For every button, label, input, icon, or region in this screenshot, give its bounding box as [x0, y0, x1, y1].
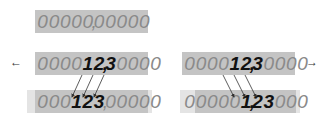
digit: 0: [207, 53, 218, 75]
digit: 0: [150, 53, 161, 75]
digit: 0: [286, 53, 297, 75]
digit: 0: [195, 91, 206, 113]
digit: 0: [195, 53, 206, 75]
digit: 0: [60, 91, 71, 113]
digit: 0: [116, 53, 127, 75]
digit: 0: [218, 91, 229, 113]
digit: 0: [37, 11, 48, 33]
digit: 0: [297, 91, 308, 113]
left-before-digits: 0 0 0 0 1 2 , 3 0 0 0 0: [37, 52, 161, 75]
top-digits: 0 0 0 0 0 , 0 0 0 0 0: [37, 10, 150, 33]
digit: 0: [60, 11, 71, 33]
digit: 0: [37, 53, 48, 75]
digit: 0: [48, 11, 59, 33]
digit: 0: [229, 91, 240, 113]
digit: 0: [218, 53, 229, 75]
digit: 0: [105, 11, 116, 33]
digit: 0: [71, 53, 82, 75]
digit: 0: [127, 53, 138, 75]
digit: 0: [274, 91, 285, 113]
digit: 0: [184, 53, 195, 75]
digit: 0: [60, 53, 71, 75]
digit: 0: [184, 91, 195, 113]
digit: 0: [48, 53, 59, 75]
digit: 0: [207, 91, 218, 113]
digit: 0: [139, 11, 150, 33]
right-after-digits: 0 0 0 0 0 1 , 2 3 0 0 0: [184, 90, 308, 113]
highlight-digit: 2: [82, 91, 93, 113]
highlight-digit: 3: [263, 91, 274, 113]
digit: 0: [37, 91, 48, 113]
digit: 0: [127, 91, 138, 113]
digit: 0: [274, 53, 285, 75]
highlight-digit: 1: [229, 53, 240, 75]
digit: 0: [286, 91, 297, 113]
left-after-digits: 0 0 0 1 2 3 , 0 0 0 0 0: [37, 90, 161, 113]
digit: 0: [71, 11, 82, 33]
arrow-left-icon: ←: [10, 55, 22, 69]
digit: 0: [263, 53, 274, 75]
arrow-right-icon: →: [306, 55, 318, 69]
digit: 0: [139, 53, 150, 75]
digit: 0: [139, 91, 150, 113]
highlight-digit: 1: [82, 53, 93, 75]
digit: 0: [116, 11, 127, 33]
highlight-digit: 1: [71, 91, 82, 113]
digit: 0: [48, 91, 59, 113]
digit: 0: [127, 11, 138, 33]
digit: 0: [116, 91, 127, 113]
digit: 0: [150, 91, 161, 113]
right-before-digits: 0 0 0 0 1 2 , 3 0 0 0 0: [184, 52, 308, 75]
